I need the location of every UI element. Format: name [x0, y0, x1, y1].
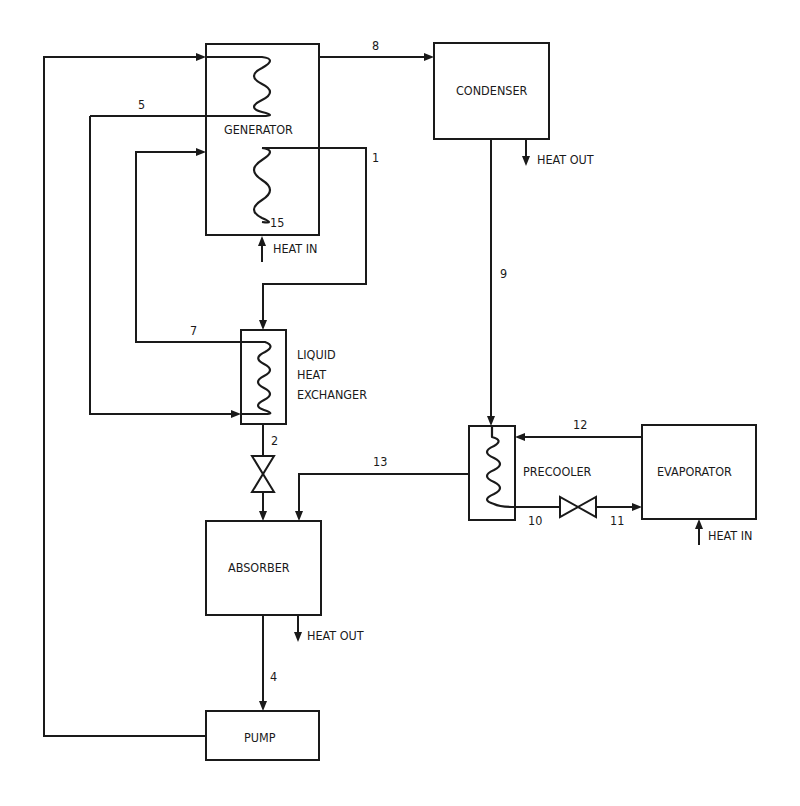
absorber-heat-out-label: HEAT OUT: [307, 628, 364, 643]
generator-lower-coil: [254, 148, 270, 223]
lhx-label-line-2: HEAT: [297, 367, 326, 382]
state-point-7: 7: [190, 323, 197, 338]
heat-out-condenser-arrowhead-icon: [522, 156, 530, 166]
heat-out-absorber-arrowhead-icon: [294, 632, 302, 642]
state-point-10: 10: [528, 513, 542, 528]
lhx-label-line-1: LIQUID: [297, 347, 336, 362]
lhx-coil: [241, 342, 271, 414]
lhx-label-line-3: EXCHANGER: [297, 387, 367, 402]
pipe-pump-to-generator: [44, 57, 206, 736]
pipe-7-lhx-to-generator: [136, 152, 241, 342]
pipe-13-precooler-to-absorber: [299, 474, 469, 515]
arrow-into-precooler-icon: [487, 416, 495, 426]
state-point-4: 4: [270, 669, 277, 684]
state-point-8: 8: [372, 38, 379, 53]
condenser-heat-out-label: HEAT OUT: [537, 152, 594, 167]
pipe-5-to-lhx: [90, 116, 235, 414]
state-point-11: 11: [610, 513, 624, 528]
arrow-into-precooler-right-icon: [515, 433, 525, 441]
evaporator-heat-in-label: HEAT IN: [708, 528, 752, 543]
arrow-into-pump-icon: [259, 701, 267, 711]
state-point-9: 9: [500, 266, 507, 281]
state-point-13: 13: [373, 454, 387, 469]
state-point-2: 2: [271, 433, 278, 448]
arrow-into-condenser-icon: [424, 53, 434, 61]
arrow-into-lhx-bottom-icon: [231, 410, 241, 418]
expansion-valve-10-icon: [560, 497, 578, 517]
generator-upper-coil: [90, 57, 270, 116]
state-point-12: 12: [573, 417, 587, 432]
generator-heat-in-label: HEAT IN: [273, 241, 317, 256]
generator-label: GENERATOR: [224, 122, 293, 137]
arrow-into-absorber-left-icon: [259, 511, 267, 521]
evaporator-label: EVAPORATOR: [657, 464, 732, 479]
state-point-5: 5: [138, 97, 145, 112]
arrow-into-evaporator-icon: [632, 503, 642, 511]
expansion-valve-2-lower-icon: [252, 474, 274, 492]
heat-in-generator-arrowhead-icon: [258, 236, 266, 246]
arrow-into-generator-top-icon: [196, 53, 206, 61]
pump-label: PUMP: [244, 730, 276, 745]
expansion-valve-11-icon: [578, 497, 596, 517]
generator-box: [206, 44, 319, 235]
expansion-valve-2-icon: [252, 456, 274, 474]
arrow-into-generator-mid-icon: [196, 148, 206, 156]
heat-in-evaporator-arrowhead-icon: [695, 519, 703, 529]
precooler-coil: [487, 426, 515, 507]
state-point-1: 1: [372, 150, 379, 165]
state-point-15: 15: [270, 215, 284, 230]
absorber-label: ABSORBER: [228, 560, 290, 575]
condenser-label: CONDENSER: [456, 83, 528, 98]
precooler-label: PRECOOLER: [523, 464, 592, 479]
absorption-cycle-diagram: GENERATOR CONDENSER LIQUID HEAT EXCHANGE…: [0, 0, 800, 806]
arrow-into-absorber-right-icon: [295, 511, 303, 521]
arrow-into-lhx-top-icon: [259, 320, 267, 330]
